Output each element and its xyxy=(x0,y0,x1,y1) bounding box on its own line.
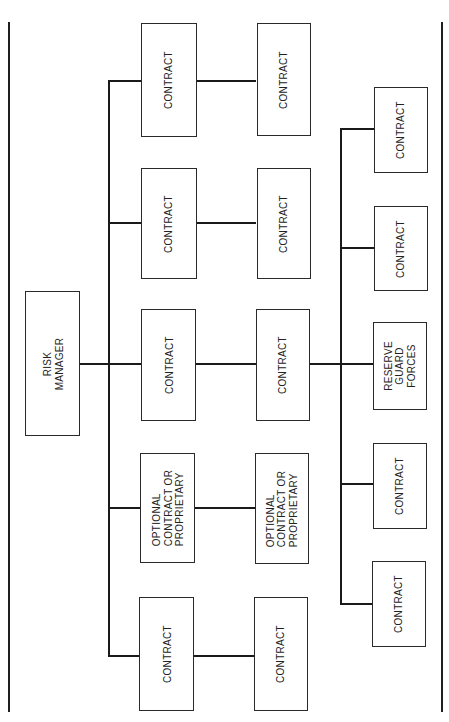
node-label: CONTRACT xyxy=(139,597,194,711)
row3-pair-connector xyxy=(196,363,256,365)
label-line: CONTRACT xyxy=(161,625,173,683)
label-line: RESERVE xyxy=(383,341,395,391)
label-line: FORCES xyxy=(406,344,418,387)
node-label: CONTRACT xyxy=(254,597,308,711)
node-reserve-guard-forces: RESERVE GUARD FORCES xyxy=(373,322,427,410)
node-label: CONTRACT xyxy=(141,23,197,137)
label-line: PROPRIETARY xyxy=(288,473,300,547)
node-row2-secondary: CONTRACT xyxy=(257,168,311,279)
label-line: CONTRACT OR xyxy=(162,470,174,546)
label-line: OPTIONAL xyxy=(265,494,277,547)
label-line: CONTRACT xyxy=(163,51,175,109)
label-line: CONTRACT xyxy=(163,195,175,253)
node-row5-primary: CONTRACT xyxy=(139,597,194,711)
right2-connector xyxy=(340,247,374,249)
label-line: CONTRACT xyxy=(163,336,175,394)
node-label: CONTRACT xyxy=(374,87,428,173)
node-right-2: CONTRACT xyxy=(374,206,428,291)
node-label: RISK MANAGER xyxy=(25,291,80,436)
node-label: CONTRACT xyxy=(373,443,427,529)
node-risk-manager: RISK MANAGER xyxy=(25,291,80,436)
node-label: CONTRACT xyxy=(374,206,428,291)
label-line: OPTIONAL xyxy=(150,493,162,546)
row5-pair-connector xyxy=(194,655,256,657)
node-row4-secondary-optional: OPTIONAL CONTRACT OR PROPRIETARY xyxy=(255,453,309,564)
node-label: CONTRACT xyxy=(141,168,197,279)
label-line: CONTRACT xyxy=(277,336,289,394)
right-branch-trunk xyxy=(340,128,342,605)
right-border-rule xyxy=(441,22,443,712)
node-label: CONTRACT xyxy=(257,23,311,136)
node-row5-secondary: CONTRACT xyxy=(254,597,308,711)
node-row1-primary: CONTRACT xyxy=(141,23,197,137)
node-row1-secondary: CONTRACT xyxy=(257,23,311,136)
node-row2-primary: CONTRACT xyxy=(141,168,197,279)
node-label: CONTRACT xyxy=(256,309,310,421)
row4-pair-connector xyxy=(195,507,256,509)
label-line: CONTRACT xyxy=(395,220,407,278)
label-line: CONTRACT xyxy=(275,625,287,683)
row2-branch-connector xyxy=(108,222,141,224)
node-label: CONTRACT xyxy=(257,168,311,279)
right1-connector xyxy=(340,128,374,130)
label-line: CONTRACT xyxy=(278,51,290,109)
row2-pair-connector xyxy=(196,222,256,224)
row5-branch-connector xyxy=(108,655,141,657)
left-branch-trunk xyxy=(108,80,110,657)
row4-branch-connector xyxy=(108,507,141,509)
node-row4-primary-optional: OPTIONAL CONTRACT OR PROPRIETARY xyxy=(140,453,195,563)
node-right-1: CONTRACT xyxy=(374,87,428,173)
right5-connector xyxy=(340,603,373,605)
label-line: RISK xyxy=(41,351,53,376)
right4-connector xyxy=(340,483,373,485)
node-right-4: CONTRACT xyxy=(373,443,427,529)
label-line: MANAGER xyxy=(53,337,65,390)
label-line: CONTRACT xyxy=(394,457,406,515)
root-connector xyxy=(80,363,141,365)
label-line: CONTRACT OR xyxy=(276,470,288,546)
node-row3-secondary: CONTRACT xyxy=(256,309,310,421)
node-label: RESERVE GUARD FORCES xyxy=(373,322,427,410)
left-border-rule xyxy=(8,22,10,712)
node-label: CONTRACT xyxy=(141,309,196,421)
node-row3-primary: CONTRACT xyxy=(141,309,196,421)
label-line: CONTRACT xyxy=(393,575,405,633)
node-label: OPTIONAL CONTRACT OR PROPRIETARY xyxy=(255,453,309,564)
label-line: GUARD xyxy=(394,347,406,385)
node-label: OPTIONAL CONTRACT OR PROPRIETARY xyxy=(140,453,195,563)
node-right-5: CONTRACT xyxy=(372,561,426,647)
label-line: PROPRIETARY xyxy=(173,472,185,546)
label-line: CONTRACT xyxy=(278,195,290,253)
row1-branch-connector xyxy=(108,80,141,82)
label-line: CONTRACT xyxy=(395,101,407,159)
row1-pair-connector xyxy=(196,80,256,82)
node-label: CONTRACT xyxy=(372,561,426,647)
